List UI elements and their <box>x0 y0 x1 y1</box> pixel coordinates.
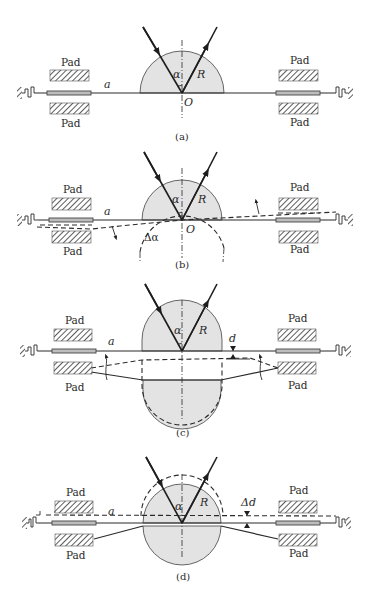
pad-label: Pad <box>289 484 309 496</box>
pad-top-right <box>278 329 316 341</box>
angle-label: α <box>173 68 181 81</box>
pad-bottom-right <box>279 103 318 114</box>
radius-label: R <box>198 324 207 337</box>
pad-top-left <box>55 501 93 513</box>
panel-a: Pad Pad Pad Pad a α R O (a) <box>17 27 353 142</box>
pad-bottom-left <box>50 103 89 114</box>
pad-label: Pad <box>288 312 308 324</box>
panel-c: Pad Pad Pad Pad a α R d (c) <box>20 284 351 438</box>
panel-caption: (c) <box>176 427 190 438</box>
left-rod <box>49 218 93 222</box>
pad-top-left <box>50 70 89 81</box>
wall-hatch-icon <box>17 87 22 99</box>
gap-label: d <box>229 332 236 345</box>
radius-label: R <box>196 68 205 81</box>
origin-label: O <box>184 96 193 109</box>
wall-hatch-icon <box>17 214 22 226</box>
pad-top-left <box>52 198 91 210</box>
right-rod <box>276 349 320 353</box>
angle-label: α <box>172 193 180 206</box>
pad-label: Pad <box>288 379 308 391</box>
right-rod <box>276 218 320 222</box>
wall-hatch-icon <box>20 345 25 357</box>
pad-label: Pad <box>63 183 83 195</box>
pad-label: Pad <box>289 547 309 559</box>
pad-label: Pad <box>61 56 81 68</box>
pad-bottom-right <box>279 231 318 243</box>
pad-bottom-left <box>52 231 91 243</box>
wall-hatch-icon <box>22 517 27 529</box>
right-rod <box>276 91 320 95</box>
right-rod <box>276 521 320 525</box>
pad-label: Pad <box>66 486 86 498</box>
plate-label: a <box>108 505 115 518</box>
left-rod <box>52 349 96 353</box>
pad-label: Pad <box>290 54 310 66</box>
pad-label: Pad <box>290 116 310 128</box>
radius-label: R <box>197 193 206 206</box>
gap-change-label: Δd <box>240 496 256 509</box>
pad-label: Pad <box>290 181 310 193</box>
pad-bottom-left <box>54 362 92 374</box>
origin-label: O <box>186 223 195 236</box>
left-flexure <box>17 87 34 99</box>
panel-caption: (d) <box>176 571 190 582</box>
pad-top-right <box>279 198 318 210</box>
wall-hatch-icon <box>348 87 353 99</box>
plate-label: a <box>104 78 111 91</box>
pad-bottom-right <box>279 534 317 546</box>
pad-label: Pad <box>63 245 83 257</box>
pad-label: Pad <box>61 117 81 129</box>
left-rod <box>47 91 91 95</box>
panel-b: Pad Pad Pad Pad a α R O Δα (b) <box>17 152 353 270</box>
pad-label: Pad <box>66 549 86 561</box>
panel-caption: (b) <box>175 259 189 270</box>
wall-hatch-icon <box>346 345 351 357</box>
panel-caption: (a) <box>175 131 189 142</box>
wall-hatch-icon <box>346 517 351 529</box>
plate-label: a <box>108 335 115 348</box>
left-rod <box>52 521 96 525</box>
rotation-arrow-down <box>112 226 116 238</box>
pad-top-right <box>279 70 318 81</box>
right-flexure <box>336 87 353 99</box>
wall-hatch-icon <box>348 214 353 226</box>
angle-label: α <box>175 500 183 513</box>
radius-label: R <box>199 496 208 509</box>
panel-d: Pad Pad Pad Pad a α R Δd (d) <box>22 457 351 582</box>
tilt-label: Δα <box>144 231 159 243</box>
pad-top-left <box>54 329 92 341</box>
displaced-plate <box>91 358 278 368</box>
angle-label: α <box>174 324 182 337</box>
pad-bottom-left <box>55 534 93 546</box>
pad-label: Pad <box>65 314 85 326</box>
pad-top-right <box>279 501 317 513</box>
pad-label: Pad <box>290 243 310 255</box>
plate-label: a <box>104 205 111 218</box>
pad-bottom-right <box>278 362 316 374</box>
displaced-plate <box>46 515 336 516</box>
pad-label: Pad <box>65 381 85 393</box>
flexure-mirror-diagram: Pad Pad Pad Pad a α R O (a) <box>0 0 371 604</box>
rotation-arrow-up <box>256 201 259 214</box>
lower-plate <box>91 368 278 380</box>
lower-plate <box>94 526 143 539</box>
